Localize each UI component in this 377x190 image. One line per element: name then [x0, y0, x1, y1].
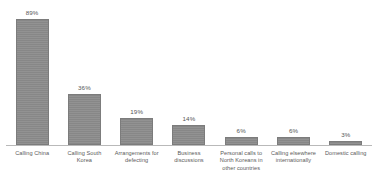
bar-value-label: 3%: [341, 131, 350, 139]
x-axis-label-calling-elsewhere-internationally: Calling elsewhere internationally: [267, 150, 319, 190]
bar-group-personal-calls-to-north-koreans: 6%: [215, 0, 267, 145]
bar-value-label: 89%: [26, 9, 39, 17]
bar-value-label: 19%: [130, 108, 143, 116]
bar-value-label: 6%: [237, 127, 246, 135]
bar-group-calling-china: 89%: [6, 0, 58, 145]
x-axis-label-business-discussions: Business discussions: [163, 150, 215, 190]
bar-group-calling-elsewhere-internationally: 6%: [267, 0, 319, 145]
bar-rect: [16, 19, 49, 145]
bar-rect: [277, 137, 310, 145]
bar-value-label: 14%: [183, 115, 196, 123]
bar-series-group: 89% 36% 19% 14% 6% 6%: [6, 0, 372, 145]
bar-chart: 89% 36% 19% 14% 6% 6%: [0, 0, 377, 190]
bar-group-domestic-calling: 3%: [320, 0, 372, 145]
bar-group-business-discussions: 14%: [163, 0, 215, 145]
x-axis-label-calling-china: Calling China: [6, 150, 58, 190]
x-axis-label-calling-south-korea: Calling South Korea: [58, 150, 110, 190]
x-axis-label-arrangements-for-defecting: Arrangements for defecting: [111, 150, 163, 190]
bar-group-arrangements-for-defecting: 19%: [111, 0, 163, 145]
bar-value-label: 6%: [289, 127, 298, 135]
x-axis-label-domestic-calling: Domestic calling: [320, 150, 372, 190]
x-axis-line: [6, 145, 372, 146]
bar-rect: [120, 118, 153, 145]
bar-group-calling-south-korea: 36%: [58, 0, 110, 145]
bar-rect: [68, 94, 101, 145]
bar-rect: [172, 125, 205, 145]
x-axis-label-personal-calls-to-north-koreans: Personal calls to North Koreans in other…: [215, 150, 267, 190]
plot-area: 89% 36% 19% 14% 6% 6%: [0, 0, 377, 146]
x-axis-category-labels: Calling China Calling South Korea Arrang…: [6, 150, 372, 190]
bar-value-label: 36%: [78, 84, 91, 92]
bar-rect: [225, 137, 258, 145]
